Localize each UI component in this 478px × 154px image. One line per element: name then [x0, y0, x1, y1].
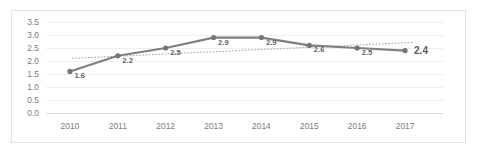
y-axis-tick-label: 1.0	[27, 82, 39, 92]
data-point-label: 2.2	[122, 56, 133, 65]
y-axis-tick-label: 0.5	[27, 95, 39, 105]
x-axis-tick-label: 2014	[252, 121, 271, 131]
data-point-label: 2.5	[362, 48, 373, 57]
data-point-label: 1.6	[74, 71, 85, 80]
x-axis-tick-label: 2015	[300, 121, 319, 131]
y-axis-tick-label: 3.0	[27, 30, 39, 40]
x-axis-tick-label: 2013	[204, 121, 223, 131]
data-point-label: 2.5	[170, 48, 181, 57]
x-axis-tick-label: 2017	[396, 121, 415, 131]
y-axis-tick-label: 2.0	[27, 56, 39, 66]
series-line	[70, 38, 405, 72]
x-axis-tick-label: 2016	[348, 121, 367, 131]
data-point-marker	[307, 43, 312, 48]
y-axis-tick-label: 3.5	[27, 17, 39, 27]
data-point-label: 2.4	[414, 45, 428, 56]
gridlines-group	[46, 22, 443, 113]
data-point-label: 2.9	[266, 38, 277, 47]
series-line-group	[70, 38, 405, 72]
data-point-marker	[163, 45, 168, 50]
chart-container: 0.00.51.01.52.02.53.03.5 201020112012201…	[11, 10, 466, 143]
data-point-label: 2.9	[218, 38, 229, 47]
x-axis-tick-label: 2010	[61, 121, 80, 131]
data-point-marker	[259, 35, 264, 40]
x-axis-ticks: 20102011201220132014201520162017	[61, 121, 415, 131]
data-point-markers	[67, 35, 407, 74]
data-point-marker	[355, 45, 360, 50]
y-axis-tick-label: 0.0	[27, 108, 39, 118]
data-point-label: 2.6	[314, 45, 325, 54]
y-axis-tick-label: 2.5	[27, 43, 39, 53]
data-point-marker	[67, 69, 72, 74]
x-axis-tick-label: 2012	[156, 121, 175, 131]
x-axis-tick-label: 2011	[109, 121, 127, 131]
data-point-marker	[115, 53, 120, 58]
line-chart: 0.00.51.01.52.02.53.03.5 201020112012201…	[12, 11, 465, 142]
y-axis-tick-label: 1.5	[27, 69, 39, 79]
data-point-marker	[211, 35, 216, 40]
data-point-marker	[402, 48, 407, 53]
y-axis-ticks: 0.00.51.01.52.02.53.03.5	[27, 17, 39, 118]
